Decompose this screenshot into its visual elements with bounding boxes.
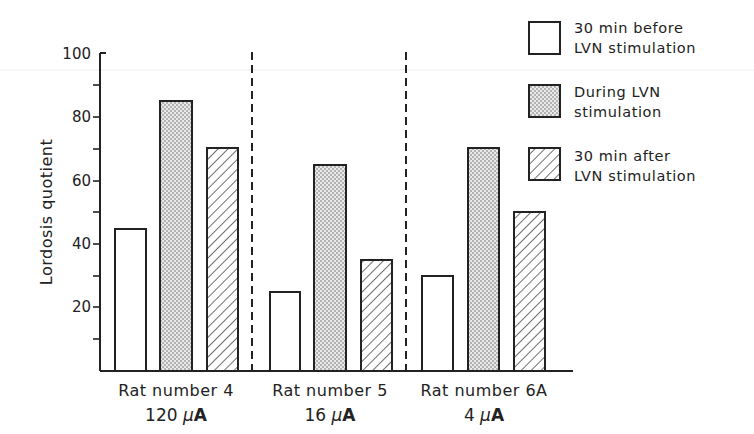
- legend-swatch-stippled: [529, 85, 560, 117]
- bar-group-rat-4: [115, 101, 238, 371]
- bar-during: [160, 101, 192, 371]
- legend-label: 30 min after: [574, 148, 671, 164]
- legend-item-before: 30 min before LVN stimulation: [529, 20, 696, 56]
- chart: 100 80 60 40 20 Lordosis quotient Rat nu…: [0, 0, 754, 434]
- legend-label: 30 min before: [574, 20, 683, 36]
- legend-swatch-open: [529, 22, 560, 54]
- bar-before: [422, 276, 453, 371]
- category-label-rat-4: Rat number 4: [118, 381, 234, 400]
- y-tick-100: 100: [62, 45, 91, 63]
- category-labels: Rat number 4 120 μA Rat number 5 16 μA R…: [118, 381, 547, 425]
- bar-after: [361, 260, 392, 371]
- legend: 30 min before LVN stimulation During LVN…: [529, 20, 696, 184]
- legend-label: LVN stimulation: [574, 40, 696, 56]
- legend-label: LVN stimulation: [574, 168, 696, 184]
- category-current-rat-6a: 4 μA: [464, 405, 505, 425]
- bar-group-rat-6a: [422, 148, 545, 371]
- legend-label: During LVN: [574, 84, 661, 100]
- bar-after: [514, 212, 545, 371]
- y-tick-40: 40: [72, 235, 91, 253]
- category-label-rat-5: Rat number 5: [272, 381, 388, 400]
- y-tick-60: 60: [72, 172, 91, 190]
- bar-after: [207, 148, 238, 371]
- y-axis-title: Lordosis quotient: [37, 139, 56, 285]
- bar-before: [270, 292, 300, 371]
- bar-before: [115, 229, 146, 371]
- legend-label: stimulation: [574, 104, 662, 120]
- category-current-rat-5: 16 μA: [304, 405, 356, 425]
- category-label-rat-6a: Rat number 6A: [420, 381, 547, 400]
- category-current-rat-4: 120 μA: [145, 405, 208, 425]
- bar-group-rat-5: [270, 165, 392, 371]
- bar-during: [468, 148, 499, 371]
- legend-swatch-hatched: [529, 148, 560, 180]
- legend-item-after: 30 min after LVN stimulation: [529, 148, 696, 184]
- legend-item-during: During LVN stimulation: [529, 84, 662, 120]
- y-tick-20: 20: [72, 298, 91, 316]
- y-axis: 100 80 60 40 20 Lordosis quotient: [37, 45, 106, 371]
- bar-during: [314, 165, 346, 371]
- y-tick-80: 80: [72, 108, 91, 126]
